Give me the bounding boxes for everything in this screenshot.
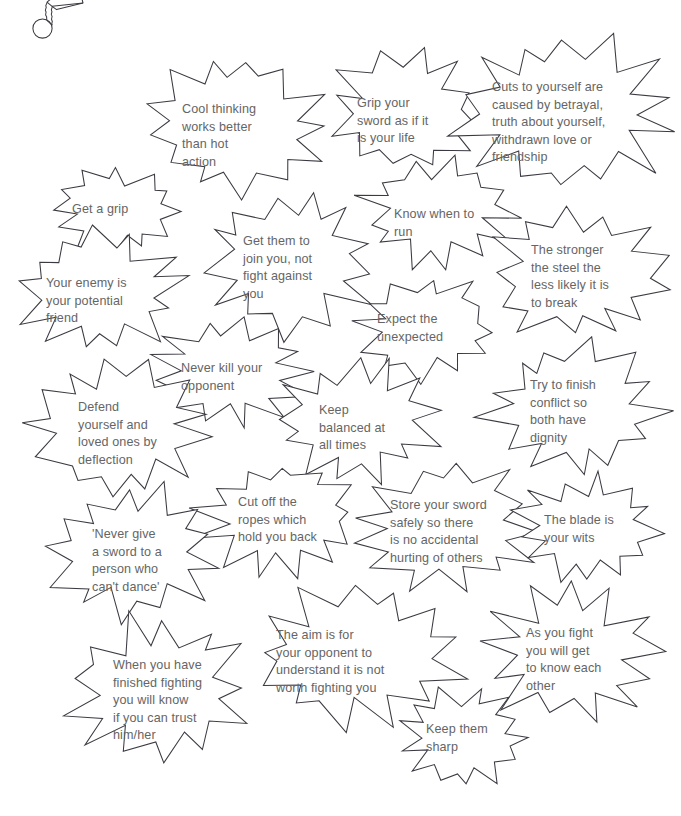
starburst-label-try-to-finish-conflict: Try to finish conflict so both have dign… [530, 377, 596, 447]
starburst-label-cool-thinking: Cool thinking works better than hot acti… [182, 101, 256, 171]
starburst-label-never-give-a-sword: 'Never give a sword to a person who can'… [92, 526, 162, 596]
starburst-label-never-kill-your-opponent: Never kill your opponent [181, 360, 262, 395]
starburst-label-know-when-to-run: Know when to run [394, 206, 474, 241]
worksheet-canvas: Cool thinking works better than hot acti… [0, 0, 681, 816]
starburst-label-the-stronger-the-steel: The stronger the steel the less likely i… [531, 242, 609, 312]
starburst-label-cuts-to-yourself: Cuts to yourself are caused by betrayal,… [492, 79, 605, 167]
starburst-label-the-blade-is-your-wits: The blade is your wits [544, 512, 614, 547]
starburst-label-defend-yourself: Defend yourself and loved ones by deflec… [78, 399, 157, 469]
starburst-label-get-a-grip: Get a grip [72, 201, 128, 219]
starburst-label-the-aim-is-for: The aim is for your opponent to understa… [276, 627, 384, 697]
starburst-label-as-you-fight: As you fight you will get to know each o… [526, 625, 601, 695]
starburst-label-your-enemy: Your enemy is your potential friend [46, 275, 127, 328]
starburst-label-keep-them-sharp: Keep them sharp [426, 721, 488, 756]
starburst-label-when-you-have-finished: When you have finished fighting you will… [113, 657, 202, 745]
sword-hilt-sketch-icon [26, 0, 86, 42]
starburst-label-cut-off-the-ropes: Cut off the ropes which hold you back [238, 494, 317, 547]
starburst-label-grip-your-sword: Grip your sword as if it is your life [357, 95, 428, 148]
starburst-label-get-them-to-join: Get them to join you, not fight against … [243, 233, 312, 303]
starburst-label-store-your-sword: Store your sword safely so there is no a… [390, 497, 487, 567]
starburst-label-expect-the-unexpected: Expect the unexpected [377, 311, 443, 346]
starburst-label-keep-balanced: Keep balanced at all times [319, 402, 385, 455]
